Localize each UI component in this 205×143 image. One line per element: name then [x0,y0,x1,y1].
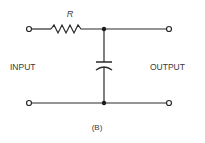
figure-caption: (B) [92,123,103,132]
resistor-label: R [67,9,74,19]
resistor-icon [51,25,83,33]
input-label: INPUT [10,62,36,72]
output-terminal-top [167,27,172,32]
input-terminal-bottom [27,101,32,106]
output-terminal-bottom [167,101,172,106]
junction-dot-bottom [102,101,106,105]
input-terminal-top [27,27,32,32]
circuit-diagram: R INPUT OUTPUT (B) [0,0,205,143]
junction-dot-top [102,27,106,31]
output-label: OUTPUT [150,62,185,72]
